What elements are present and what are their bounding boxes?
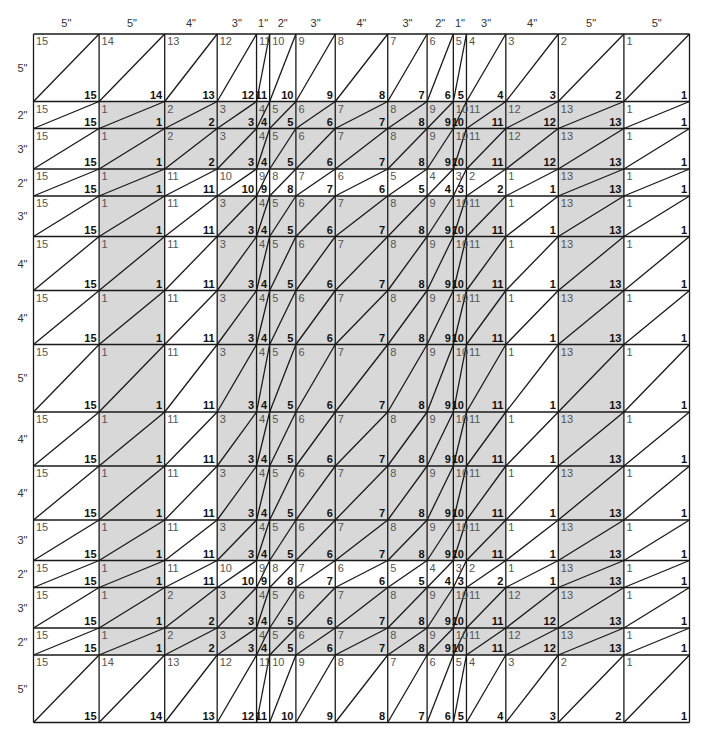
cell-number-bottom-right: 10: [452, 615, 464, 627]
cell-number-bottom-right: 4: [445, 575, 452, 587]
cell-number-bottom-right: 1: [156, 116, 162, 128]
column-label: 4": [186, 17, 196, 29]
cell-number-top-left: 7: [338, 130, 344, 142]
cell-number-bottom-right: 10: [452, 453, 464, 465]
cell-number-bottom-right: 9: [445, 156, 451, 168]
cell-number-top-left: 1: [508, 197, 514, 209]
cell-number-bottom-right: 9: [445, 224, 451, 236]
quilt-block-diagram: 5"5"4"3"1"2"3"4"3"2"1"3"4"5"5" 5"2"3"2"3…: [0, 0, 705, 733]
cell-number-bottom-right: 8: [379, 710, 385, 722]
cell-number-top-left: 13: [167, 656, 179, 668]
cell-number-top-left: 10: [456, 521, 468, 533]
cell-number-top-left: 6: [430, 656, 436, 668]
cell-number-bottom-right: 1: [550, 575, 556, 587]
cell-number-top-left: 11: [469, 589, 480, 601]
cell-number-bottom-right: 10: [452, 156, 464, 168]
cell-number-bottom-right: 11: [492, 615, 504, 627]
cell-number-top-left: 7: [390, 35, 396, 47]
row-label: 2": [17, 568, 27, 580]
cell-number-top-left: 10: [272, 656, 284, 668]
cell-number-top-left: 11: [469, 103, 480, 115]
cell-number-top-left: 6: [298, 103, 304, 115]
cell-number-top-left: 4: [430, 562, 436, 574]
cell-number-bottom-right: 3: [248, 332, 254, 344]
cell-number-bottom-right: 1: [681, 183, 687, 195]
cell-number-bottom-right: 5: [287, 642, 293, 654]
cell-number-bottom-right: 7: [379, 224, 385, 236]
cell-number-bottom-right: 2: [209, 156, 215, 168]
cell-diagonal: [624, 291, 690, 345]
cell-number-bottom-right: 13: [609, 615, 621, 627]
cell-number-bottom-right: 5: [418, 183, 424, 195]
cell-number-bottom-right: 6: [327, 332, 333, 344]
cell-number-bottom-right: 4: [261, 453, 268, 465]
cell-number-top-left: 5: [272, 589, 278, 601]
cell-number-top-left: 5: [272, 197, 278, 209]
cell-number-bottom-right: 10: [452, 399, 464, 411]
cell-number-top-left: 4: [430, 170, 436, 182]
cell-number-top-left: 10: [456, 292, 468, 304]
cell-number-bottom-right: 6: [327, 548, 333, 560]
cell-number-top-left: 4: [259, 589, 265, 601]
cell-number-bottom-right: 4: [497, 710, 504, 722]
cell-number-bottom-right: 3: [248, 453, 254, 465]
cell-number-top-left: 11: [167, 413, 178, 425]
cell-number-bottom-right: 3: [248, 116, 254, 128]
cell-number-bottom-right: 15: [84, 710, 96, 722]
cell-number-bottom-right: 4: [261, 116, 268, 128]
cell-number-bottom-right: 1: [550, 183, 556, 195]
cell-number-top-left: 11: [167, 197, 178, 209]
cell-number-top-left: 15: [36, 346, 48, 358]
column-label: 3": [481, 17, 491, 29]
cell-number-bottom-right: 2: [615, 89, 621, 101]
cell-number-bottom-right: 1: [681, 332, 687, 344]
cell-number-top-left: 1: [626, 589, 632, 601]
cell-number-top-left: 7: [338, 346, 344, 358]
cell-number-bottom-right: 7: [379, 548, 385, 560]
cell-number-top-left: 4: [259, 130, 265, 142]
cell-number-bottom-right: 1: [156, 278, 162, 290]
cell-number-top-left: 3: [220, 521, 226, 533]
cell-number-bottom-right: 14: [150, 89, 163, 101]
cell-number-top-left: 4: [259, 292, 265, 304]
cell-number-top-left: 9: [430, 346, 436, 358]
cell-number-bottom-right: 3: [248, 615, 254, 627]
cell-number-bottom-right: 3: [248, 507, 254, 519]
cell-number-bottom-right: 2: [209, 642, 215, 654]
cell-number-bottom-right: 11: [492, 332, 504, 344]
cell-number-top-left: 11: [469, 629, 480, 641]
cell-number-top-left: 1: [626, 238, 632, 250]
row-label: 3": [17, 534, 27, 546]
cell-number-bottom-right: 4: [261, 224, 268, 236]
cell-number-top-left: 4: [259, 197, 265, 209]
cell-number-top-left: 13: [167, 35, 179, 47]
cell-number-bottom-right: 13: [609, 548, 621, 560]
cell-number-top-left: 10: [456, 589, 468, 601]
cell-number-top-left: 6: [298, 238, 304, 250]
cell-number-bottom-right: 1: [156, 156, 162, 168]
cell-number-top-left: 3: [220, 629, 226, 641]
cell-number-bottom-right: 11: [492, 453, 504, 465]
cell-diagonal: [624, 628, 690, 655]
cell-number-top-left: 13: [561, 103, 573, 115]
cell-diagonal: [624, 102, 690, 129]
cell-number-bottom-right: 5: [287, 278, 293, 290]
cell-number-top-left: 4: [259, 629, 265, 641]
cell-number-top-left: 6: [298, 413, 304, 425]
cell-number-bottom-right: 13: [609, 116, 621, 128]
cell-number-top-left: 8: [390, 521, 396, 533]
cell-number-bottom-right: 9: [327, 89, 333, 101]
cell-diagonal: [624, 237, 690, 291]
cell-number-bottom-right: 10: [281, 89, 293, 101]
cell-number-top-left: 7: [338, 629, 344, 641]
cell-number-bottom-right: 8: [418, 642, 424, 654]
cell-number-bottom-right: 15: [84, 278, 96, 290]
cell-number-bottom-right: 5: [287, 615, 293, 627]
cell-number-bottom-right: 7: [379, 116, 385, 128]
cell-number-bottom-right: 1: [681, 156, 687, 168]
cell-number-bottom-right: 7: [379, 642, 385, 654]
cell-number-top-left: 13: [561, 521, 573, 533]
cell-number-bottom-right: 7: [379, 507, 385, 519]
cell-number-top-left: 14: [102, 35, 114, 47]
cell-number-top-left: 15: [36, 170, 48, 182]
